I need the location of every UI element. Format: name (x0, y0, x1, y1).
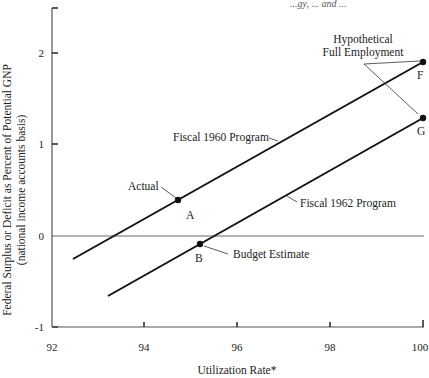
leader-full-employment-g (364, 64, 418, 114)
y-tick-1: 1 (39, 138, 45, 150)
point-g-label: G (417, 125, 425, 137)
annotation-actual: Actual (128, 180, 159, 192)
leader-full-employment-f (364, 61, 420, 64)
annotation-hypothetical: Hypothetical (333, 33, 392, 46)
x-tick-92: 92 (47, 341, 58, 353)
x-tick-100: 100 (412, 341, 429, 353)
point-b-label: B (195, 252, 203, 264)
chart: ...gy, ... and ... 2 1 0 -1 92 94 96 98 … (0, 0, 429, 378)
y-axis-subtitle: (national income accounts basis) (15, 115, 28, 266)
x-tick-98: 98 (325, 341, 337, 353)
point-f (420, 59, 426, 65)
point-a-label: A (186, 209, 195, 221)
annotation-fiscal-1960: Fiscal 1960 Program (173, 131, 269, 144)
leader-actual (161, 187, 176, 198)
point-b (197, 241, 203, 247)
point-f-label: F (417, 69, 423, 81)
x-tick-94: 94 (139, 341, 151, 353)
y-axis (52, 8, 58, 327)
y-tick-neg1: -1 (35, 321, 44, 333)
header-fragment: ...gy, ... and ... (290, 0, 346, 9)
y-tick-0: 0 (39, 230, 45, 242)
leader-budget-estimate (204, 246, 228, 254)
series-fiscal-1960-line (73, 62, 423, 259)
annotation-full-employment: Full Employment (323, 46, 405, 59)
x-axis (52, 320, 424, 327)
annotation-fiscal-1962: Fiscal 1962 Program (300, 197, 396, 210)
x-axis-title: Utilization Rate* (198, 364, 277, 376)
x-tick-96: 96 (232, 341, 244, 353)
y-tick-2: 2 (39, 47, 45, 59)
y-axis-title: Federal Surplus or Deficit as Percent of… (1, 64, 14, 316)
leader-fiscal-1960 (269, 138, 278, 141)
annotation-budget-estimate: Budget Estimate (233, 248, 309, 261)
point-g (420, 115, 426, 121)
leader-fiscal-1962 (287, 196, 297, 202)
